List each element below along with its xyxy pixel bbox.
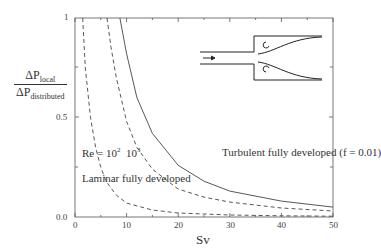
x-axis-label: Sv bbox=[196, 232, 210, 248]
expansion-inset-diagram bbox=[200, 36, 322, 80]
re-text: Re = 10 bbox=[82, 147, 117, 159]
x-tick-20: 20 bbox=[174, 220, 183, 230]
re-exp-2: 3 bbox=[137, 146, 141, 154]
reynolds-label: Re = 102 103 bbox=[82, 146, 140, 159]
curve-0 bbox=[83, 18, 333, 216]
y-tick-1: 1 bbox=[64, 12, 69, 22]
x-tick-0: 0 bbox=[73, 220, 78, 230]
y-tick-0: 0.0 bbox=[56, 212, 67, 222]
x-tick-30: 30 bbox=[226, 220, 235, 230]
re-text-2: 10 bbox=[126, 147, 137, 159]
x-tick-10: 10 bbox=[122, 220, 131, 230]
x-tick-40: 40 bbox=[277, 220, 286, 230]
x-tick-50: 50 bbox=[329, 220, 338, 230]
den-sub: distributed bbox=[30, 93, 64, 102]
plot-frame bbox=[75, 18, 333, 217]
y-tick-0-5: 0.5 bbox=[56, 112, 67, 122]
laminar-label: Laminar fully developed bbox=[82, 172, 191, 184]
y-axis-label: ΔPlocal ΔPdistributed bbox=[14, 68, 67, 102]
y-label-numerator: ΔPlocal bbox=[14, 68, 67, 85]
den-text: ΔP bbox=[16, 85, 30, 99]
num-text: ΔP bbox=[25, 68, 39, 82]
y-label-denominator: ΔPdistributed bbox=[14, 85, 67, 101]
chart-curves bbox=[83, 18, 333, 216]
turbulent-label: Turbulent fully developed (f = 0.01) bbox=[222, 146, 381, 158]
re-exp-1: 2 bbox=[117, 146, 121, 154]
num-sub: local bbox=[40, 75, 56, 84]
